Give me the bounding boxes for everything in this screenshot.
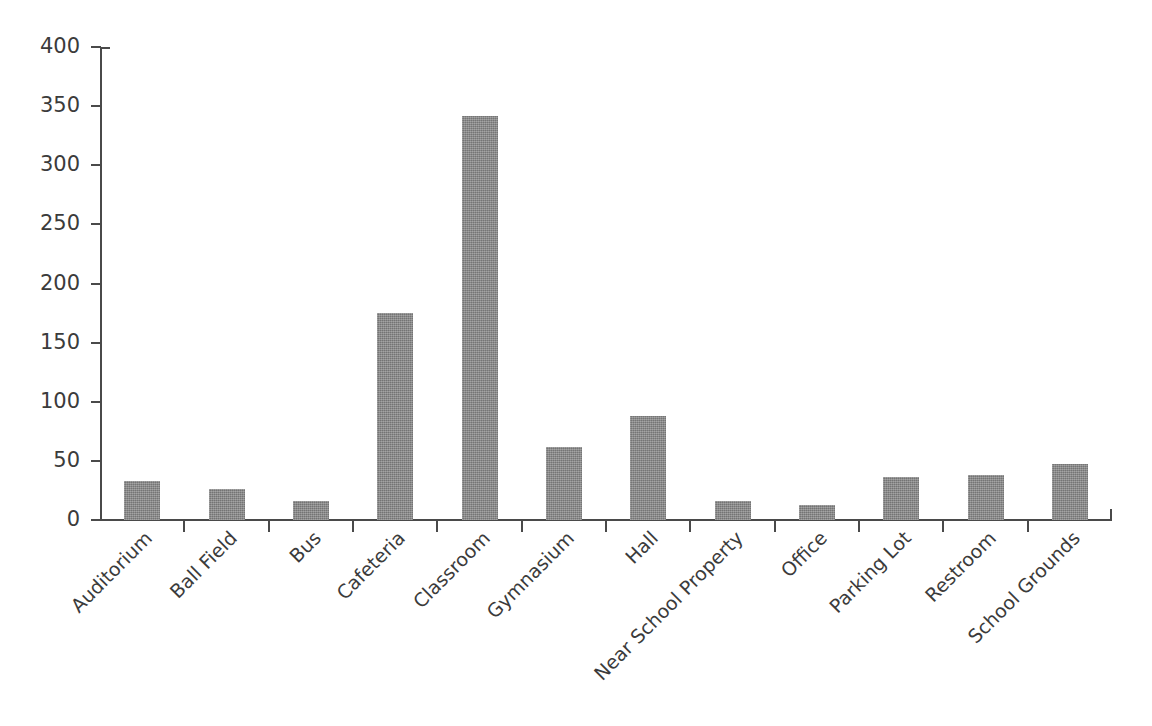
y-axis-tick-label: 100 — [0, 391, 80, 412]
x-axis-tick — [774, 521, 776, 532]
y-axis-tick-label: 300 — [0, 154, 80, 175]
y-axis-tick-label: 250 — [0, 213, 80, 234]
bar[interactable] — [124, 481, 160, 520]
bar[interactable] — [462, 116, 498, 520]
bar[interactable] — [715, 501, 751, 520]
x-axis-tick — [605, 521, 607, 532]
bar[interactable] — [209, 489, 245, 520]
y-axis-tick-label: 150 — [0, 332, 80, 353]
x-axis-tick — [942, 521, 944, 532]
x-axis-tick — [268, 521, 270, 532]
bar[interactable] — [293, 501, 329, 520]
x-axis-tick — [436, 521, 438, 532]
y-axis-tick-label: 200 — [0, 273, 80, 294]
bar[interactable] — [1052, 464, 1088, 520]
bar-chart: 050100150200250300350400 AuditoriumBall … — [0, 0, 1152, 726]
bar[interactable] — [968, 475, 1004, 520]
x-axis-tick — [1027, 521, 1029, 532]
x-axis-tick — [858, 521, 860, 532]
y-axis-tick-label: 400 — [0, 36, 80, 57]
x-axis-tick — [521, 521, 523, 532]
x-axis-tick — [689, 521, 691, 532]
bar[interactable] — [799, 505, 835, 520]
y-axis-tick-label: 50 — [0, 450, 80, 471]
y-axis-tick-label: 350 — [0, 95, 80, 116]
bar[interactable] — [883, 477, 919, 520]
x-axis-tick — [352, 521, 354, 532]
x-axis-tick — [183, 521, 185, 532]
y-axis-tick-label: 0 — [0, 509, 80, 530]
bar[interactable] — [630, 416, 666, 520]
bar[interactable] — [546, 447, 582, 520]
bar[interactable] — [377, 313, 413, 520]
bar-series-incidents — [100, 47, 1112, 520]
